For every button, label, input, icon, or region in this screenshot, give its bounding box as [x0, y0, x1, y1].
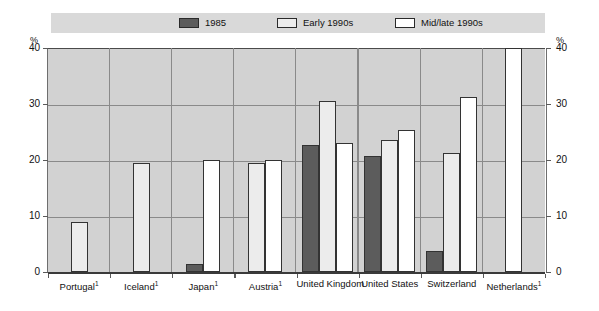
bar-group — [359, 48, 421, 272]
x-axis-tick — [172, 274, 173, 278]
x-axis-category-label: Iceland1 — [110, 278, 172, 292]
bar — [302, 145, 319, 272]
legend-label-1985: 1985 — [205, 18, 226, 28]
legend-item-1985: 1985 — [179, 16, 226, 30]
y-axis-label-left-10: 10 — [14, 211, 40, 221]
bar — [443, 153, 460, 272]
y-axis-tick — [546, 160, 551, 161]
bar-group — [483, 48, 545, 272]
bar-group — [421, 48, 483, 272]
x-axis-category-label: Austria1 — [234, 278, 296, 292]
y-axis-label-right-40: 40 — [556, 43, 582, 53]
bar-group — [48, 48, 110, 272]
bar-chart-figure: 1985 Early 1990s Mid/late 1990s % % 0010… — [0, 0, 599, 311]
y-axis-label-right-10: 10 — [556, 211, 582, 221]
x-axis-tick — [483, 274, 484, 278]
x-axis-tick — [110, 274, 111, 278]
x-axis-category-label: Switzerland — [421, 278, 483, 289]
x-axis-tick — [359, 274, 360, 278]
bar — [265, 160, 282, 272]
legend-label-mid-late-1990s: Mid/late 1990s — [421, 18, 483, 28]
y-axis-tick — [546, 48, 551, 49]
bar-group — [172, 48, 234, 272]
bar — [319, 101, 336, 272]
y-axis-label-left-20: 20 — [14, 155, 40, 165]
bar — [186, 264, 203, 272]
legend-swatch-1985 — [179, 18, 199, 28]
legend-item-early-1990s: Early 1990s — [277, 16, 353, 30]
legend-item-mid-late-1990s: Mid/late 1990s — [395, 16, 483, 30]
bar — [336, 143, 353, 272]
bar — [364, 156, 381, 272]
bar — [381, 140, 398, 272]
y-axis-tick — [546, 104, 551, 105]
bar-group — [234, 48, 296, 272]
x-axis-tick — [545, 274, 546, 278]
bar — [505, 48, 522, 272]
x-axis-category-label: Portugal1 — [48, 278, 110, 292]
bar-group — [110, 48, 172, 272]
x-axis-tick — [297, 274, 298, 278]
y-axis-label-right-20: 20 — [556, 155, 582, 165]
y-axis-label-left-30: 30 — [14, 99, 40, 109]
legend-label-early-1990s: Early 1990s — [303, 18, 353, 28]
y-axis-label-right-30: 30 — [556, 99, 582, 109]
y-axis-label-left-0: 0 — [14, 267, 40, 277]
bar — [248, 163, 265, 272]
x-axis-category-label: Netherlands1 — [483, 278, 545, 292]
x-axis-tick — [48, 274, 49, 278]
bar — [203, 160, 220, 272]
y-axis-label-right-0: 0 — [556, 267, 582, 277]
x-axis-category-label: United Kingdom — [297, 278, 359, 289]
bar — [71, 222, 88, 272]
bar — [398, 130, 415, 272]
bar-group — [297, 48, 359, 272]
legend-swatch-mid-late-1990s — [395, 18, 415, 28]
y-axis-tick — [546, 272, 551, 273]
chart-legend: 1985 Early 1990s Mid/late 1990s — [51, 13, 545, 33]
legend-swatch-early-1990s — [277, 18, 297, 28]
y-axis-tick — [546, 216, 551, 217]
x-axis-category-label: Japan1 — [172, 278, 234, 292]
x-axis-category-label: United States — [359, 278, 421, 289]
y-axis-label-left-40: 40 — [14, 43, 40, 53]
x-axis-tick — [421, 274, 422, 278]
x-axis-tick — [234, 274, 235, 278]
bar — [133, 163, 150, 272]
bar — [460, 97, 477, 272]
bar — [426, 251, 443, 272]
